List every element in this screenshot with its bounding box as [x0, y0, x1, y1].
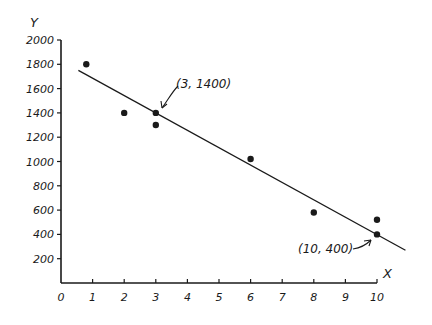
y-axis-label: Y	[30, 15, 39, 30]
x-tick-label: 1	[89, 291, 96, 304]
data-point	[153, 122, 159, 128]
x-tick-label: 7	[279, 291, 286, 304]
x-tick-label: 3	[152, 291, 159, 304]
y-tick-label: 600	[33, 204, 54, 217]
y-tick-label: 800	[33, 180, 54, 193]
data-point	[83, 61, 89, 67]
annotations: (3, 1400)(10, 400)	[161, 77, 371, 256]
regression-line	[78, 70, 405, 250]
x-axis-label: X	[382, 266, 393, 281]
annotation-arrow	[353, 240, 371, 249]
scatter-chart: 0123456789102004006008001000120014001600…	[0, 0, 432, 325]
annotation-label-10-400: (10, 400)	[298, 242, 353, 256]
x-tick-label: 6	[247, 291, 254, 304]
y-tick-label: 1600	[26, 83, 54, 96]
data-point	[374, 231, 380, 237]
data-point	[121, 110, 127, 116]
data-point	[247, 156, 253, 162]
annotation-label-3-1400: (3, 1400)	[176, 77, 231, 91]
y-tick-label: 400	[33, 228, 54, 241]
annotation-arrow	[162, 86, 178, 108]
x-tick-label: 9	[342, 291, 349, 304]
x-tick-label: 8	[310, 291, 317, 304]
y-tick-label: 1400	[26, 107, 54, 120]
y-tick-label: 200	[33, 253, 54, 266]
x-tick-label: 0	[58, 291, 65, 304]
data-point	[374, 217, 380, 223]
y-tick-label: 1000	[26, 156, 54, 169]
data-point	[311, 209, 317, 215]
x-tick-label: 4	[184, 291, 191, 304]
y-tick-label: 2000	[26, 34, 54, 47]
y-tick-label: 1200	[26, 131, 54, 144]
ticks: 0123456789102004006008001000120014001600…	[26, 34, 384, 304]
data-point	[153, 110, 159, 116]
x-tick-label: 5	[216, 291, 223, 304]
x-tick-label: 2	[121, 291, 128, 304]
y-tick-label: 1800	[26, 58, 54, 71]
fit-line	[78, 70, 405, 250]
x-tick-label: 10	[370, 291, 384, 304]
